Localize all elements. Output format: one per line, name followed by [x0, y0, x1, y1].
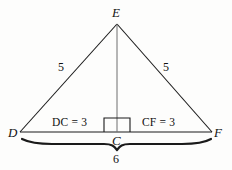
- vertex-label-F: F: [214, 126, 222, 139]
- segment-label-CF: CF = 3: [142, 117, 175, 129]
- side-label-left-leg: 5: [58, 61, 64, 73]
- vertex-label-D: D: [8, 126, 17, 139]
- geometry-figure: E D F C 5 5 DC = 3 CF = 3 6: [0, 0, 232, 170]
- vertex-label-C: C: [112, 134, 121, 147]
- segment-label-DC: DC = 3: [52, 117, 87, 129]
- vertex-label-E: E: [112, 6, 120, 19]
- brace-label-base-length: 6: [113, 153, 119, 165]
- side-label-right-leg: 5: [163, 61, 169, 73]
